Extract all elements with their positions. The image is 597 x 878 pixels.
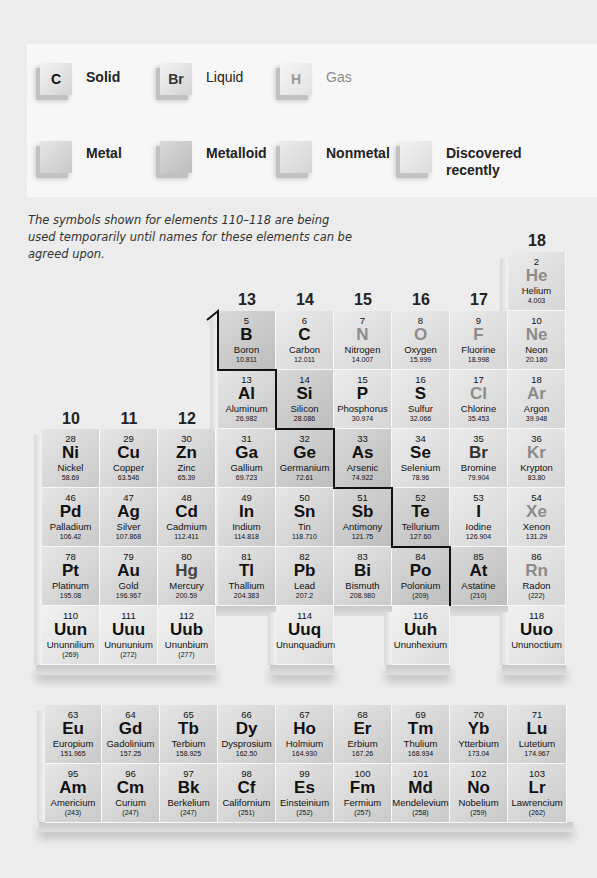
legend-metal-label: Metal	[86, 145, 122, 162]
element-name: Germanium	[276, 462, 333, 473]
element-cell-sb[interactable]: 51SbAntimony121.75	[334, 488, 392, 547]
element-cell-md[interactable]: 101MdMendelevium(258)	[392, 764, 450, 823]
element-cell-lr[interactable]: 103LrLawrencium(262)	[508, 764, 567, 823]
element-name: Gallium	[218, 462, 275, 473]
cell-side-edge	[500, 612, 508, 665]
element-symbol: Cf	[218, 779, 275, 797]
element-cell-ni[interactable]: 28NiNickel58.69	[42, 429, 100, 488]
element-cell-cl[interactable]: 17ClChlorine35.453	[450, 370, 508, 429]
element-name: Radon	[508, 580, 565, 591]
element-cell-at[interactable]: 85AtAstatine(210)	[450, 547, 508, 606]
element-cell-cd[interactable]: 48CdCadmium112.411	[158, 488, 216, 547]
element-cell-f[interactable]: 9FFluorine18.998	[450, 311, 508, 370]
element-cell-p[interactable]: 15PPhosphorus30.974	[334, 370, 392, 429]
element-cell-bi[interactable]: 83BiBismuth208.980	[334, 547, 392, 606]
element-symbol: Zn	[158, 444, 215, 462]
element-cell-cm[interactable]: 96CmCurium(247)	[102, 764, 160, 823]
element-cell-eu[interactable]: 63EuEuropium151.965	[45, 705, 102, 764]
element-cell-ne[interactable]: 10NeNeon20.180	[508, 311, 566, 370]
element-cell-pt[interactable]: 78PtPlatinum195.08	[42, 547, 100, 606]
element-cell-al[interactable]: 13AlAluminum26.982	[218, 370, 276, 429]
atomic-mass: 30.974	[334, 414, 391, 423]
element-cell-ag[interactable]: 47AgSilver107.868	[100, 488, 158, 547]
element-cell-uun[interactable]: 110UunUnunnilium(269)	[42, 606, 100, 665]
element-symbol: Tl	[218, 562, 275, 580]
element-name: Tellurium	[392, 521, 449, 532]
element-name: Berkelium	[160, 797, 217, 808]
element-cell-uub[interactable]: 112UubUnunbium(277)	[158, 606, 216, 665]
element-cell-cu[interactable]: 29CuCopper63.546	[100, 429, 158, 488]
element-cell-no[interactable]: 102NoNobelium(259)	[450, 764, 508, 823]
element-cell-er[interactable]: 68ErErbium167.26	[334, 705, 392, 764]
element-cell-i[interactable]: 53IIodine126.904	[450, 488, 508, 547]
element-cell-in[interactable]: 49InIndium114.818	[218, 488, 276, 547]
element-name: Holmium	[276, 738, 333, 749]
atomic-mass: 196.967	[100, 591, 157, 600]
element-cell-kr[interactable]: 36KrKrypton83.80	[508, 429, 566, 488]
element-cell-ho[interactable]: 67HoHolmium164.930	[276, 705, 334, 764]
element-cell-s[interactable]: 16SSulfur32.066	[392, 370, 450, 429]
element-cell-b[interactable]: 5BBoron10.811	[218, 311, 276, 370]
element-name: Ununnilium	[42, 639, 99, 650]
element-cell-po[interactable]: 84PoPolonium(209)	[392, 547, 450, 606]
atomic-mass: 208.980	[334, 591, 391, 600]
element-cell-uuq[interactable]: 114UuqUnunquadium	[276, 606, 334, 665]
element-cell-pd[interactable]: 46PdPalladium106.42	[42, 488, 100, 547]
legend-metal: Metal	[40, 141, 122, 173]
legend-solid: C Solid	[40, 69, 120, 101]
element-cell-uuh[interactable]: 116UuhUnunhexium	[392, 606, 450, 665]
element-cell-n[interactable]: 7NNitrogen14.007	[334, 311, 392, 370]
element-cell-lu[interactable]: 71LuLutetium174.967	[508, 705, 567, 764]
group-label-13: 13	[218, 291, 276, 309]
atomic-mass: 112.411	[158, 532, 215, 541]
element-cell-tb[interactable]: 65TbTerbium158.925	[160, 705, 218, 764]
element-cell-ar[interactable]: 18ArArgon39.948	[508, 370, 566, 429]
element-cell-uuo[interactable]: 118UuoUnunoctium	[508, 606, 566, 665]
atomic-mass: 121.75	[334, 532, 391, 541]
atomic-mass: 65.39	[158, 473, 215, 482]
element-name: Xenon	[508, 521, 565, 532]
element-symbol: Sn	[276, 503, 333, 521]
element-cell-rn[interactable]: 86RnRadon(222)	[508, 547, 566, 606]
element-symbol: Uun	[42, 621, 99, 639]
element-symbol: Sb	[334, 503, 391, 521]
element-cell-uuu[interactable]: 111UuuUnununium(272)	[100, 606, 158, 665]
atomic-mass: 195.08	[42, 591, 99, 600]
element-cell-gd[interactable]: 64GdGadolinium157.25	[102, 705, 160, 764]
element-cell-au[interactable]: 79AuGold196.967	[100, 547, 158, 606]
atomic-mass: 157.25	[102, 749, 159, 758]
atomic-mass: 28.086	[276, 414, 333, 423]
element-cell-se[interactable]: 34SeSelenium78.96	[392, 429, 450, 488]
group-label-15: 15	[334, 291, 392, 309]
element-cell-es[interactable]: 99EsEinsteinium(252)	[276, 764, 334, 823]
element-cell-c[interactable]: 6CCarbon12.011	[276, 311, 334, 370]
atomic-mass: 167.26	[334, 749, 391, 758]
element-cell-o[interactable]: 8OOxygen15.999	[392, 311, 450, 370]
atomic-mass: 39.948	[508, 414, 565, 423]
element-cell-as[interactable]: 33AsArsenic74.922	[334, 429, 392, 488]
element-cell-dy[interactable]: 66DyDysprosium162.50	[218, 705, 276, 764]
element-cell-bk[interactable]: 97BkBerkelium(247)	[160, 764, 218, 823]
element-cell-ge[interactable]: 32GeGermanium72.61	[276, 429, 334, 488]
atomic-mass: 35.453	[450, 414, 507, 423]
element-cell-ga[interactable]: 31GaGallium69.723	[218, 429, 276, 488]
element-name: Bromine	[450, 462, 507, 473]
element-cell-hg[interactable]: 80HgMercury200.59	[158, 547, 216, 606]
element-cell-cf[interactable]: 98CfCalifornium(251)	[218, 764, 276, 823]
element-cell-si[interactable]: 14SiSilicon28.086	[276, 370, 334, 429]
element-cell-pb[interactable]: 82PbLead207.2	[276, 547, 334, 606]
element-cell-br[interactable]: 35BrBromine79.904	[450, 429, 508, 488]
element-cell-tl[interactable]: 81TlThallium204.383	[218, 547, 276, 606]
element-name: Platinum	[42, 580, 99, 591]
element-cell-am[interactable]: 95AmAmericium(243)	[45, 764, 102, 823]
element-cell-xe[interactable]: 54XeXenon131.29	[508, 488, 566, 547]
element-cell-zn[interactable]: 30ZnZinc65.39	[158, 429, 216, 488]
element-cell-sn[interactable]: 50SnTin118.710	[276, 488, 334, 547]
element-cell-tm[interactable]: 69TmThulium168.934	[392, 705, 450, 764]
cell-side-edge	[384, 612, 392, 665]
atomic-mass: (209)	[392, 591, 449, 600]
element-cell-te[interactable]: 52TeTellurium127.60	[392, 488, 450, 547]
element-cell-he[interactable]: 2HeHelium4.003	[508, 252, 566, 311]
element-cell-fm[interactable]: 100FmFermium(257)	[334, 764, 392, 823]
element-cell-yb[interactable]: 70YbYtterbium173.04	[450, 705, 508, 764]
